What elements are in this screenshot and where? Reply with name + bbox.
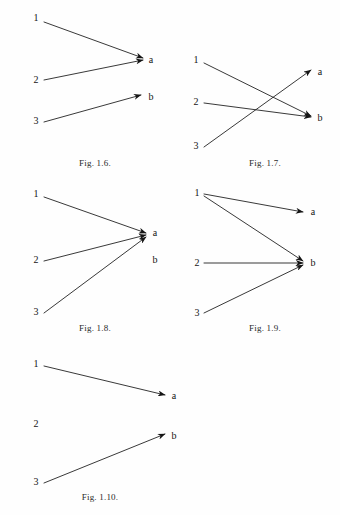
arrow-3-to-b	[204, 265, 303, 313]
domain-label-1: 1	[34, 359, 39, 369]
codomain-label-a: a	[172, 391, 176, 401]
domain-label-3: 3	[34, 307, 39, 317]
figure-plate-page: 123abFig. 1.6.123abFig. 1.7.123abFig. 1.…	[0, 0, 340, 515]
codomain-label-b: b	[172, 431, 177, 441]
figure-caption-fig-1-8: Fig. 1.8.	[79, 323, 111, 333]
codomain-label-b: b	[318, 113, 323, 123]
figure-caption-fig-1-10: Fig. 1.10.	[82, 492, 119, 502]
figure-group-fig-1-10	[44, 366, 165, 483]
domain-label-2: 2	[195, 258, 200, 268]
domain-label-1: 1	[194, 55, 199, 65]
figure-caption-fig-1-6: Fig. 1.6.	[79, 158, 111, 168]
domain-label-3: 3	[34, 477, 39, 487]
arrow-3-to-b	[44, 434, 165, 483]
codomain-label-a: a	[149, 55, 153, 65]
codomain-label-a: a	[153, 228, 157, 238]
arrow-2-to-b	[204, 103, 311, 117]
arrow-1-to-a	[44, 22, 143, 58]
figure-group-fig-1-7	[204, 63, 311, 147]
arrow-1-to-a	[204, 194, 303, 212]
codomain-label-b: b	[153, 255, 158, 265]
figure-group-fig-1-6	[44, 22, 143, 122]
diagram-canvas	[0, 0, 340, 515]
domain-label-2: 2	[34, 75, 39, 85]
domain-label-2: 2	[194, 97, 199, 107]
domain-label-3: 3	[194, 141, 199, 151]
domain-label-3: 3	[34, 116, 39, 126]
codomain-label-b: b	[311, 258, 316, 268]
codomain-label-b: b	[149, 92, 154, 102]
arrow-1-to-a	[44, 197, 146, 233]
codomain-label-a: a	[311, 207, 315, 217]
arrow-1-to-a	[44, 366, 165, 395]
domain-label-1: 1	[195, 188, 200, 198]
domain-label-1: 1	[34, 13, 39, 23]
figure-group-fig-1-8	[44, 197, 146, 313]
domain-label-2: 2	[34, 419, 39, 429]
arrow-2-to-a	[44, 60, 143, 80]
domain-label-2: 2	[34, 255, 39, 265]
domain-label-1: 1	[34, 189, 39, 199]
arrow-1-to-b	[204, 196, 303, 261]
figure-group-fig-1-9	[204, 194, 303, 313]
domain-label-3: 3	[195, 308, 200, 318]
figure-caption-fig-1-9: Fig. 1.9.	[249, 323, 281, 333]
arrow-3-to-b	[44, 95, 141, 122]
codomain-label-a: a	[318, 67, 322, 77]
figure-caption-fig-1-7: Fig. 1.7.	[249, 158, 281, 168]
